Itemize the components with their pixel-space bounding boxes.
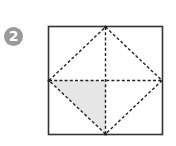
dashed-lines xyxy=(49,27,162,134)
diamond-edge-top-right xyxy=(106,27,163,81)
diamond-edge-top-left xyxy=(49,27,106,81)
folding-diagram xyxy=(0,0,176,146)
diamond-edge-bottom-right xyxy=(106,81,163,135)
